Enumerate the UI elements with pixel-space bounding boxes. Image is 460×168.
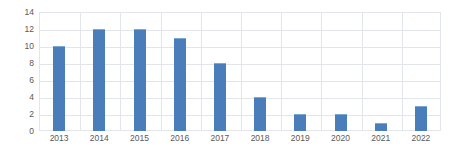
x-tick-label: 2017 <box>210 134 229 143</box>
bar-chart: 02468101214 2013201420152016201720182019… <box>0 0 460 168</box>
bar <box>375 123 387 132</box>
bar <box>53 46 65 131</box>
bar <box>415 106 427 132</box>
bar <box>294 114 306 131</box>
y-tick-label: 14 <box>25 8 34 17</box>
x-tick-label: 2015 <box>130 134 149 143</box>
bar <box>93 29 105 131</box>
bars-layer <box>39 12 441 131</box>
x-tick-label: 2016 <box>170 134 189 143</box>
x-tick-label: 2020 <box>331 134 350 143</box>
bar <box>214 63 226 131</box>
y-tick-label: 8 <box>29 59 34 68</box>
bar <box>335 114 347 131</box>
x-tick-label: 2022 <box>411 134 430 143</box>
y-tick-label: 6 <box>29 76 34 85</box>
y-tick-label: 2 <box>29 110 34 119</box>
y-axis: 02468101214 <box>0 0 39 168</box>
y-tick-label: 4 <box>29 93 34 102</box>
bar <box>134 29 146 131</box>
x-tick-label: 2014 <box>90 134 109 143</box>
y-tick-label: 0 <box>29 127 34 136</box>
y-tick-label: 10 <box>25 42 34 51</box>
x-tick-label: 2019 <box>291 134 310 143</box>
x-tick-label: 2013 <box>50 134 69 143</box>
x-tick-label: 2018 <box>251 134 270 143</box>
bar <box>174 38 186 132</box>
bar <box>254 97 266 131</box>
x-tick-label: 2021 <box>371 134 390 143</box>
y-tick-label: 12 <box>25 25 34 34</box>
x-axis: 2013201420152016201720182019202020212022 <box>39 134 441 154</box>
